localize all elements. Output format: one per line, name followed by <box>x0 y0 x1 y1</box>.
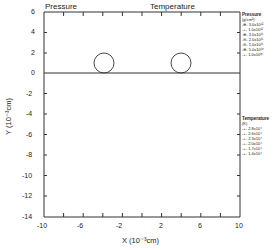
x-tick-label: 10 <box>235 222 243 229</box>
y-tick-label: 6 <box>31 8 35 15</box>
y-tick-label: -8 <box>26 151 32 158</box>
y-tick-label: -14 <box>22 213 32 220</box>
temperature-bubble <box>171 53 191 73</box>
legend-entry: -+- 1.4x10⁴ <box>242 151 269 156</box>
y-tick-label: -10 <box>22 172 32 179</box>
y-tick-label: -6 <box>26 131 32 138</box>
x-tick-label: 6 <box>198 222 202 229</box>
y-tick-label: -4 <box>26 110 32 117</box>
y-tick-label: 0 <box>31 69 35 76</box>
x-tick-label: 2 <box>159 222 163 229</box>
plot-area <box>0 0 276 250</box>
y-tick-label: -2 <box>26 90 32 97</box>
pressure-bubble <box>94 53 114 73</box>
x-axis-label: X (10⁻³cm) <box>122 236 159 245</box>
y-tick-label: -12 <box>22 192 32 199</box>
y-axis-label: Y (10⁻³cm) <box>4 89 13 145</box>
x-ticks <box>64 12 221 217</box>
temperature-legend: Temperature (K) -+- 2.8x10⁴ -+- 2.6x10⁴ … <box>242 116 269 156</box>
x-tick-label: -2 <box>116 222 122 229</box>
pressure-legend: Pressure (g/cm²) -⊕- 3.0x10¹² -+- 1.0x10… <box>242 12 264 57</box>
x-tick-label: -6 <box>77 222 83 229</box>
x-tick-label: -10 <box>37 222 47 229</box>
legend-entry: -+- 1.0x10¹⁰ <box>242 52 264 57</box>
y-tick-label: 2 <box>31 49 35 56</box>
y-tick-label: 4 <box>31 28 35 35</box>
y-ticks <box>44 33 240 197</box>
